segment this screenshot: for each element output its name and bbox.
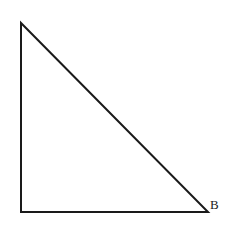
triangle-graphic [0, 0, 231, 228]
vertex-label-b: B [210, 198, 219, 211]
figure-canvas: B [0, 0, 231, 228]
right-triangle-shape [21, 23, 208, 212]
